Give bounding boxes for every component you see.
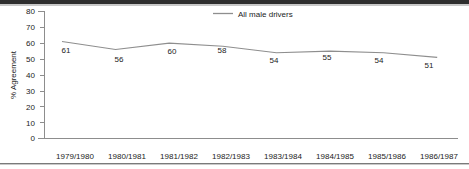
data-label-1986-1987: 51 <box>425 61 434 70</box>
data-label-1980-1981: 56 <box>115 55 124 64</box>
y-tick-marks <box>38 12 45 139</box>
y-tick-label-0: 0 <box>31 134 36 143</box>
y-tick-label-30: 30 <box>26 87 35 96</box>
legend-label-all-male-drivers: All male drivers <box>238 10 293 19</box>
line-chart: 80 70 60 50 40 30 20 10 0 % Agreement 61… <box>0 0 469 169</box>
data-label-1984-1985: 55 <box>323 53 332 62</box>
x-tick-label-1979-1980: 1979/1980 <box>56 152 94 161</box>
data-label-1983-1984: 54 <box>270 56 279 65</box>
y-tick-label-10: 10 <box>26 119 35 128</box>
y-tick-label-50: 50 <box>26 55 35 64</box>
y-tick-label-20: 20 <box>26 103 35 112</box>
y-tick-label-40: 40 <box>26 71 35 80</box>
page-bottom-rule-shadow <box>0 164 469 165</box>
data-label-1982-1983: 58 <box>218 46 227 55</box>
x-tick-label-1983-1984: 1983/1984 <box>264 152 302 161</box>
chart-legend: All male drivers <box>213 10 293 19</box>
data-label-1981-1982: 60 <box>168 47 177 56</box>
y-tick-label-80: 80 <box>26 7 35 16</box>
x-tick-label-1985-1986: 1985/1986 <box>368 152 406 161</box>
data-label-1985-1986: 54 <box>375 56 384 65</box>
x-tick-label-1984-1985: 1984/1985 <box>316 152 354 161</box>
x-tick-label-1986-1987: 1986/1987 <box>420 152 458 161</box>
data-label-1979-1980: 61 <box>62 46 71 55</box>
x-tick-label-1980-1981: 1980/1981 <box>108 152 146 161</box>
chart-screenshot: 80 70 60 50 40 30 20 10 0 % Agreement 61… <box>0 0 469 169</box>
x-tick-label-1981-1982: 1981/1982 <box>160 152 198 161</box>
y-axis-title: % Agreement <box>9 50 18 99</box>
y-tick-label-60: 60 <box>26 39 35 48</box>
y-tick-label-70: 70 <box>26 23 35 32</box>
x-tick-label-1982-1983: 1982/1983 <box>212 152 250 161</box>
